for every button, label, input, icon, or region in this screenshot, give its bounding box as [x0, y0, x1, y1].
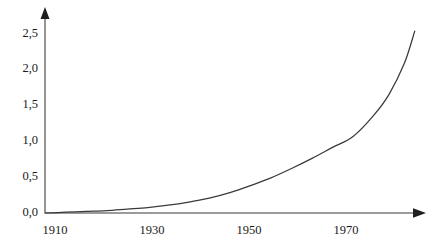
x-tick-label: 1930 [140, 224, 165, 237]
x-tick-label: 1950 [237, 224, 262, 237]
y-tick-label: 1,5 [2, 98, 38, 111]
x-axis-arrow-icon [413, 208, 426, 217]
y-tick-label: 1,0 [2, 134, 38, 147]
data-series-line [45, 31, 415, 213]
y-axis-arrow-icon [41, 7, 50, 19]
chart-plot-area [0, 0, 442, 248]
series-group [45, 31, 415, 213]
chart-container: 0,0 0,5 1,0 1,5 2,0 2,5 1910 1930 1950 1… [0, 0, 442, 248]
x-tick-label: 1970 [334, 224, 359, 237]
axes-group [41, 7, 427, 218]
y-tick-label: 2,0 [2, 62, 38, 75]
x-tick-label: 1910 [43, 224, 68, 237]
y-tick-label: 0,5 [2, 170, 38, 183]
y-tick-label: 0,0 [2, 206, 38, 219]
y-tick-label: 2,5 [2, 27, 38, 40]
